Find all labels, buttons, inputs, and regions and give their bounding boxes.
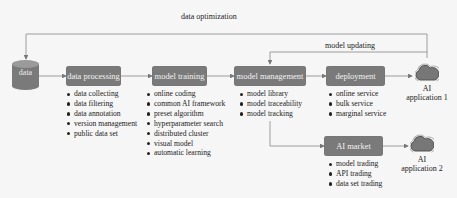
ai-application-1-label: AI application 1 [402,84,452,102]
cloud-icon [410,133,434,153]
list-item: model trading [329,159,382,169]
model-training-features: online coding common AI framework preset… [147,89,225,158]
stage-model-training[interactable]: model training [152,66,207,86]
data-optimization-label: data optimization [181,12,237,21]
list-item: automatic learning [147,148,225,158]
list-item: data set trading [329,179,382,189]
ai-application-2-label: AI application 2 [397,155,447,173]
list-item: data annotation [67,109,137,119]
stage-data-processing[interactable]: data processing [66,66,121,86]
list-item: online service [329,89,386,99]
list-item: data filtering [67,99,137,109]
list-item: bulk service [329,99,386,109]
ai-pipeline-diagram: data optimization model updating data da… [0,0,457,198]
list-item: version management [67,119,137,129]
ai-market-features: model trading API trading data set tradi… [329,159,382,189]
app-label-line2: application 2 [397,164,447,173]
stage-deployment[interactable]: deployment [326,66,385,86]
model-updating-label: model updating [325,41,375,50]
list-item: online coding [147,89,225,99]
app-label-line2: application 1 [402,93,452,102]
cloud-icon [415,62,439,82]
model-management-features: model library model traceability model t… [240,89,302,119]
list-item: public data set [67,129,137,139]
list-item: data collecting [67,89,137,99]
list-item: model library [240,89,302,99]
list-item: hyperparameter search [147,119,225,129]
list-item: API trading [329,169,382,179]
stage-model-management[interactable]: model management [234,66,306,86]
list-item: model tracking [240,109,302,119]
list-item: preset algorithm [147,109,225,119]
app-label-line1: AI [397,155,447,164]
data-processing-features: data collecting data filtering data anno… [67,89,137,139]
data-store-label: data [12,68,39,77]
list-item: visual model [147,139,225,149]
deployment-features: online service bulk service marginal ser… [329,89,386,119]
list-item: common AI framework [147,99,225,109]
list-item: model traceability [240,99,302,109]
stage-ai-market[interactable]: AI market [324,136,383,156]
list-item: marginal service [329,109,386,119]
app-label-line1: AI [402,84,452,93]
list-item: distributed cluster [147,129,225,139]
